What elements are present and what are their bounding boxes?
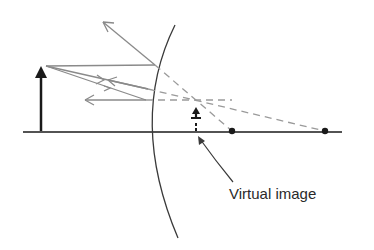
virtual-image-arrow <box>191 107 201 131</box>
ray-diagram <box>0 0 374 250</box>
center-of-curvature <box>322 128 328 134</box>
incident-rays <box>46 65 155 100</box>
object-arrow <box>35 66 47 131</box>
reflected-rays <box>85 22 155 105</box>
focal-point <box>229 128 235 134</box>
virtual-ray-extensions <box>146 65 325 131</box>
label-pointer <box>198 136 233 182</box>
virtual-image-label: Virtual image <box>229 185 316 202</box>
